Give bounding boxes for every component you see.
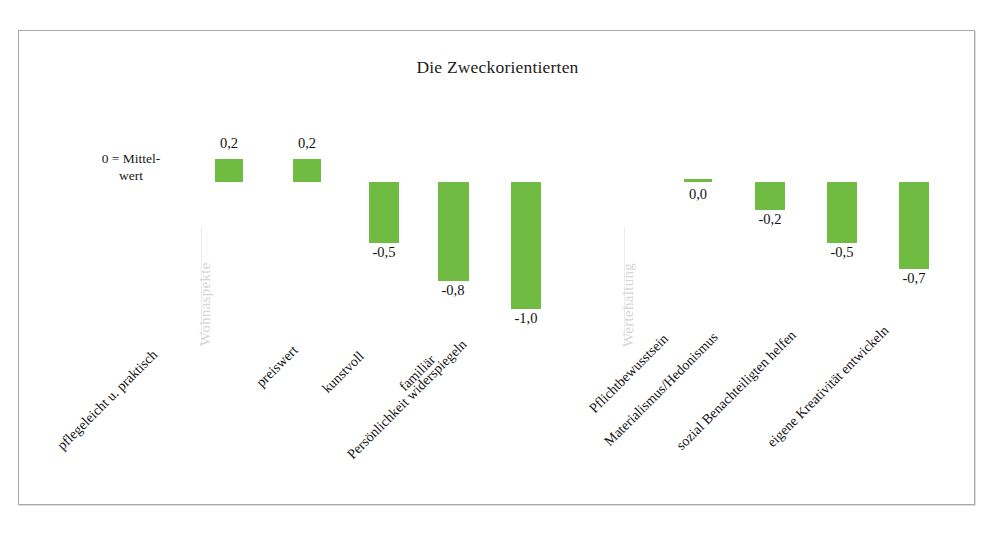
bar-wertehaltung-0 xyxy=(684,179,712,182)
bar-wohnaspekte-2 xyxy=(369,182,399,243)
chart-root: Die Zweckorientierten 0 = Mittel- wert W… xyxy=(0,0,1005,533)
chart-title: Die Zweckorientierten xyxy=(19,57,976,78)
baseline-note-line2: wert xyxy=(71,167,191,184)
bar-value-wohnaspekte-4: -1,0 xyxy=(492,310,560,327)
baseline-note-line1: 0 = Mittel- xyxy=(71,150,191,167)
baseline-note: 0 = Mittel- wert xyxy=(71,150,191,184)
chart-frame: Die Zweckorientierten 0 = Mittel- wert W… xyxy=(18,30,975,505)
bar-wohnaspekte-1 xyxy=(293,159,321,182)
bar-wohnaspekte-3 xyxy=(438,182,469,281)
category-label-wohnaspekte-2: kunstvoll xyxy=(319,348,367,396)
category-label-wohnaspekte-1: preiswert xyxy=(253,343,301,391)
bar-wohnaspekte-4 xyxy=(511,182,541,309)
bar-value-wohnaspekte-0: 0,2 xyxy=(195,135,263,152)
bar-value-wohnaspekte-3: -0,8 xyxy=(419,282,487,299)
plot-area: Die Zweckorientierten 0 = Mittel- wert W… xyxy=(19,31,976,506)
section-label-wertehaltung: Wertehaltung xyxy=(620,263,637,347)
section-label-wohnaspekte: Wohnaspekte xyxy=(197,262,214,346)
bar-wohnaspekte-0 xyxy=(215,159,243,182)
bar-wertehaltung-1 xyxy=(755,182,785,210)
bar-value-wertehaltung-1: -0,2 xyxy=(736,211,804,228)
bar-value-wohnaspekte-2: -0,5 xyxy=(350,244,418,261)
bar-value-wohnaspekte-1: 0,2 xyxy=(273,135,341,152)
bar-wertehaltung-2 xyxy=(827,182,857,243)
bar-wertehaltung-3 xyxy=(899,182,929,269)
bar-value-wertehaltung-0: 0,0 xyxy=(664,186,732,203)
bar-value-wertehaltung-2: -0,5 xyxy=(808,244,876,261)
category-label-wohnaspekte-0: pflegeleicht u. praktisch xyxy=(54,347,161,454)
bar-value-wertehaltung-3: -0,7 xyxy=(880,270,948,287)
